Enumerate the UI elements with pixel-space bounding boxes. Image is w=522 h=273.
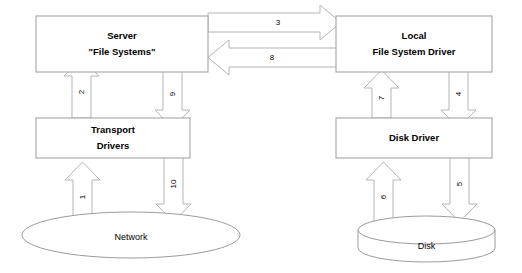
arrow-9-label: 9 [168, 91, 177, 96]
arrow-2-label: 2 [77, 89, 86, 94]
node-server: Server "File Systems" [36, 16, 208, 72]
node-network: Network [22, 212, 240, 258]
arrow-1-label: 1 [78, 194, 87, 199]
arrow-5-label: 5 [455, 181, 464, 186]
arrow-7: 7 [364, 70, 399, 118]
arrow-8-label: 8 [270, 53, 275, 62]
arrow-3: 3 [208, 5, 341, 40]
transport-drivers-label-line2: Drivers [97, 140, 130, 151]
arrow-5: 5 [442, 157, 477, 222]
diagram-canvas: 3 8 2 9 1 10 7 [0, 0, 522, 273]
local-fs-driver-label-line2: File System Driver [373, 46, 456, 57]
arrow-10-label: 10 [169, 179, 178, 188]
network-label: Network [114, 232, 148, 242]
node-disk: Disk [358, 216, 495, 262]
arrow-7-label: 7 [377, 95, 386, 100]
node-local-file-system-driver: Local File System Driver [336, 16, 492, 72]
server-label-line2: "File Systems" [88, 46, 155, 57]
server-label-line1: Server [107, 30, 137, 41]
local-fs-driver-label-line1: Local [402, 30, 427, 41]
node-disk-driver: Disk Driver [336, 118, 492, 158]
node-transport-drivers: Transport Drivers [36, 118, 190, 158]
transport-drivers-label-line1: Transport [91, 124, 136, 135]
arrow-10: 10 [156, 157, 191, 222]
arrow-8: 8 [208, 40, 341, 75]
disk-driver-label: Disk Driver [389, 132, 439, 143]
arrow-3-label: 3 [276, 18, 281, 27]
disk-label: Disk [418, 241, 436, 251]
arrow-4-label: 4 [454, 91, 463, 96]
arrow-6-label: 6 [379, 194, 388, 199]
